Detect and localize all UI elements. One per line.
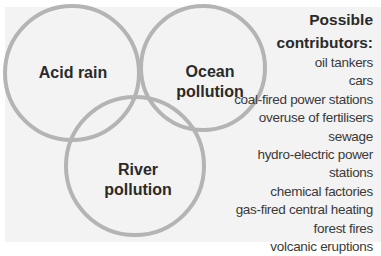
contributor-item: volcanic eruptions [234,238,373,256]
contributor-item: forest fires [234,220,373,238]
contributor-item: stations [234,164,373,182]
contributor-item: gas-fired central heating [234,201,373,219]
legend-title-line1: Possible [234,8,373,31]
contributor-item: cars [234,72,373,90]
river-line2: pollution [98,180,178,200]
contributor-item: coal-fired power stations [234,91,373,109]
contributor-item: hydro-electric power [234,146,373,164]
contributor-item: chemical factories [234,183,373,201]
contributors-legend: Possible contributors: oil tankers cars … [234,8,373,256]
river-line1: River [98,160,178,180]
contributors-list: oil tankers cars coal-fired power statio… [234,54,373,256]
legend-title-line2: contributors: [234,31,373,54]
acid-rain-text: Acid rain [39,64,107,81]
contributor-item: overuse of fertilisers [234,109,373,127]
contributor-item: sewage [234,128,373,146]
label-river-pollution: River pollution [98,160,178,200]
label-acid-rain: Acid rain [38,63,108,83]
contributor-item: oil tankers [234,54,373,72]
